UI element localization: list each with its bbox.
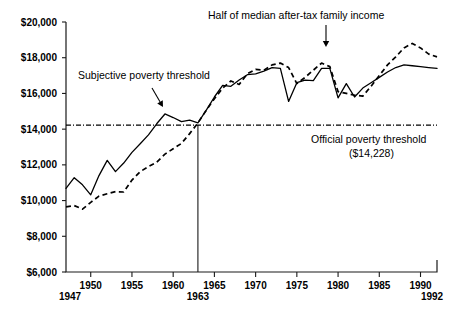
y-tick-label: $18,000 bbox=[21, 52, 58, 63]
annotation-subjective-poverty-threshold: Subjective poverty threshold bbox=[78, 69, 210, 107]
y-tick-label: $20,000 bbox=[21, 17, 58, 28]
income-poverty-threshold-line-chart: $6,000 $8,000 $10,000 $12,000 $14,000 $1… bbox=[0, 0, 458, 325]
x-axis-endpoint-labels: 1947 1992 bbox=[59, 291, 444, 302]
x-tick-label: 1990 bbox=[409, 280, 432, 291]
series-subjective-poverty-threshold bbox=[66, 65, 437, 195]
x-tick-label: 1980 bbox=[327, 280, 350, 291]
y-tick-label: $6,000 bbox=[26, 267, 57, 278]
x-axis-tick-labels: 1950 1955 1960 1965 1970 1975 1980 1985 … bbox=[80, 280, 432, 291]
annotation-arrow-line bbox=[152, 88, 160, 102]
chart-container: $6,000 $8,000 $10,000 $12,000 $14,000 $1… bbox=[0, 0, 458, 325]
x-tick-label: 1955 bbox=[121, 280, 144, 291]
annotation-label: Half of median after-tax family income bbox=[208, 9, 384, 21]
annotation-label: Official poverty threshold bbox=[311, 133, 427, 145]
marker-year-label: 1963 bbox=[187, 291, 210, 302]
x-axis-end-label: 1992 bbox=[421, 291, 444, 302]
y-tick-label: $10,000 bbox=[21, 195, 58, 206]
x-tick-label: 1960 bbox=[162, 280, 185, 291]
annotation-value-label: ($14,228) bbox=[349, 147, 394, 159]
x-tick-label: 1975 bbox=[286, 280, 309, 291]
y-axis-tick-labels: $6,000 $8,000 $10,000 $12,000 $14,000 $1… bbox=[21, 17, 58, 278]
annotation-official-poverty-threshold: Official poverty threshold ($14,228) bbox=[311, 133, 427, 159]
y-tick-label: $14,000 bbox=[21, 124, 58, 135]
x-axis-ticks bbox=[91, 272, 421, 277]
annotation-arrow-head-icon bbox=[323, 41, 329, 47]
x-tick-label: 1985 bbox=[368, 280, 391, 291]
x-tick-label: 1965 bbox=[203, 280, 226, 291]
y-tick-label: $16,000 bbox=[21, 88, 58, 99]
annotation-half-median-income: Half of median after-tax family income bbox=[208, 9, 384, 47]
y-tick-label: $8,000 bbox=[26, 231, 57, 242]
x-axis-start-label: 1947 bbox=[59, 291, 82, 302]
x-tick-label: 1970 bbox=[244, 280, 267, 291]
annotation-label: Subjective poverty threshold bbox=[78, 69, 210, 81]
marker-year-1963: 1963 bbox=[187, 125, 210, 302]
y-tick-label: $12,000 bbox=[21, 159, 58, 170]
x-tick-label: 1950 bbox=[80, 280, 103, 291]
